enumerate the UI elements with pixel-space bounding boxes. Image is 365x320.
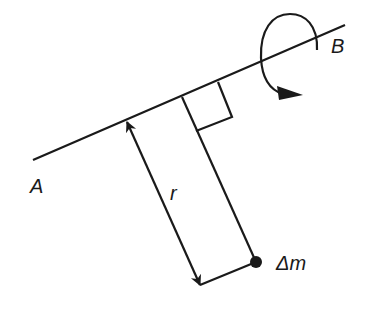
label-r: r	[170, 182, 178, 204]
rotation-axis-line	[33, 25, 345, 160]
radius-arrow	[127, 122, 200, 285]
label-b: B	[331, 35, 344, 57]
mass-element-dot	[250, 256, 262, 268]
rotation-diagram: B A r Δm	[0, 0, 365, 320]
label-delta-m: Δm	[275, 252, 306, 274]
rotation-direction-arrow-icon	[261, 14, 317, 94]
connector-line	[200, 262, 256, 285]
rotation-arrowhead-icon	[277, 86, 303, 100]
label-a: A	[29, 175, 43, 197]
right-angle-marker	[196, 82, 232, 131]
